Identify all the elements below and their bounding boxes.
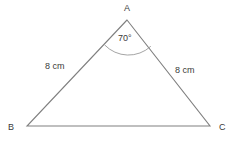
geometry-diagram: A B C 8 cm 8 cm 70° bbox=[0, 0, 236, 145]
angle-measure-label-a: 70° bbox=[118, 34, 132, 43]
triangle-shape bbox=[0, 0, 236, 145]
vertex-label-a: A bbox=[124, 4, 130, 13]
angle-arc-a bbox=[105, 45, 151, 55]
vertex-label-c: C bbox=[219, 123, 226, 132]
side-length-label-ab: 8 cm bbox=[45, 62, 65, 71]
side-length-label-ac: 8 cm bbox=[175, 66, 195, 75]
vertex-label-b: B bbox=[8, 123, 14, 132]
